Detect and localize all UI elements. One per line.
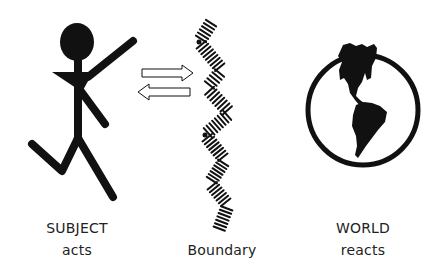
arrow-left-icon <box>138 84 190 100</box>
arrow-right-icon <box>142 65 193 81</box>
subject-title: SUBJECT <box>17 220 137 236</box>
subject-subtitle: acts <box>17 242 137 258</box>
boundary-label: Boundary <box>162 242 282 258</box>
world-title: WORLD <box>303 220 423 236</box>
globe-icon <box>308 43 418 165</box>
stick-figure-icon <box>32 23 133 197</box>
world-subtitle: reacts <box>303 242 423 258</box>
boundary-zigzag-icon <box>196 20 233 231</box>
